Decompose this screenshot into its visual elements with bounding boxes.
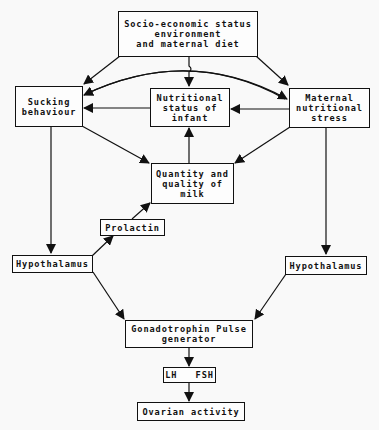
- edge-hypothalamus-left-to-gonadotrophin: [93, 272, 124, 319]
- node-socio-economic-status: Socio-economic status environment and ma…: [118, 11, 258, 57]
- node-line: Nutritional: [157, 93, 224, 103]
- node-line: and maternal diet: [136, 39, 239, 49]
- node-line: Hypothalamus: [16, 259, 89, 269]
- node-gonadotrophin-pulse-generator: Gonadotrophin Pulse generator: [125, 320, 253, 348]
- node-line: Ovarian activity: [142, 407, 239, 417]
- node-sucking-behaviour: Sucking behaviour: [15, 86, 83, 127]
- edge-maternal-to-milk: [235, 127, 290, 163]
- node-hypothalamus-right: Hypothalamus: [285, 256, 367, 275]
- edge-socio-to-maternal: [256, 56, 288, 85]
- node-line: quality of: [162, 179, 223, 189]
- node-ovarian-activity: Ovarian activity: [137, 402, 245, 421]
- node-line: infant: [172, 113, 208, 123]
- node-maternal-nutritional-stress: Maternal nutritional stress: [289, 88, 370, 128]
- node-line: Gonadotrophin Pulse: [131, 324, 246, 334]
- node-line: Quantity and: [156, 169, 229, 179]
- node-line: behaviour: [22, 107, 77, 117]
- node-line: Prolactin: [105, 223, 160, 233]
- node-line: LH FSH: [165, 370, 214, 380]
- node-lh-fsh: LH FSH: [163, 367, 216, 383]
- edge-socio-to-sucking: [84, 56, 120, 84]
- edge-prolactin-to-milk: [132, 203, 150, 219]
- edge-hypothalamus-right-to-gonadotrophin: [255, 274, 286, 319]
- node-line: nutritional: [296, 103, 363, 113]
- edge-hypothalamus-left-to-prolactin: [92, 236, 113, 256]
- node-line: generator: [162, 334, 217, 344]
- flowchart-diagram: Socio-economic status environment and ma…: [0, 0, 379, 430]
- node-line: Maternal: [305, 93, 354, 103]
- node-line: stress: [311, 113, 347, 123]
- edge-sucking-to-milk: [82, 126, 149, 163]
- edges-layer: [0, 0, 379, 430]
- node-line: status of: [163, 103, 218, 113]
- node-nutritional-status-of-infant: Nutritional status of infant: [150, 88, 230, 127]
- node-line: Hypothalamus: [290, 261, 363, 271]
- node-line: milk: [180, 189, 204, 199]
- node-prolactin: Prolactin: [100, 219, 165, 236]
- node-line: Sucking: [28, 97, 71, 107]
- node-line: environment: [155, 29, 222, 39]
- node-line: Socio-economic status: [124, 19, 252, 29]
- node-hypothalamus-left: Hypothalamus: [12, 255, 93, 273]
- node-quantity-quality-of-milk: Quantity and quality of milk: [151, 163, 234, 204]
